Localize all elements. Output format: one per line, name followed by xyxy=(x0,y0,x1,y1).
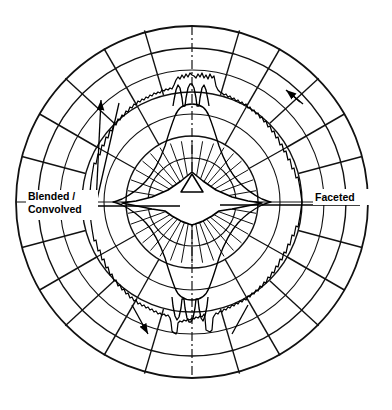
spoke-outer-half xyxy=(22,231,86,248)
leader-bottom-left-arrow xyxy=(132,305,148,334)
spoke-outer xyxy=(247,49,280,106)
spoke-outer xyxy=(40,114,97,147)
spoke-mid xyxy=(225,106,247,145)
spoke-mid xyxy=(97,147,136,169)
spoke-outer-half xyxy=(221,30,240,95)
spoke-mid xyxy=(137,259,159,298)
figure-caption xyxy=(4,398,388,410)
spoke-outer xyxy=(287,114,344,147)
spoke-outer-half xyxy=(22,157,86,174)
spoke-outer-half xyxy=(298,157,362,174)
spoke-mid xyxy=(248,147,287,169)
leader-left-arrow-second xyxy=(96,103,119,204)
spoke-outer xyxy=(287,257,344,290)
spoke-outer xyxy=(40,257,97,290)
label-blended-line1: Blended / xyxy=(28,190,75,202)
spoke-outer xyxy=(247,298,280,355)
spoke-outer-half xyxy=(145,30,164,95)
aircraft-planform-silhouette xyxy=(122,172,262,225)
leader-bottom-right-arrow xyxy=(232,305,248,334)
label-faceted: Faceted xyxy=(315,191,355,203)
spoke-mid xyxy=(137,106,159,145)
spoke-outer-half xyxy=(145,309,164,374)
spoke-mid xyxy=(97,235,136,257)
trace-blended-top-lobes xyxy=(173,84,209,106)
polar-rcs-figure: Blended / Convolved Faceted xyxy=(0,0,392,410)
polar-plot-svg: Blended / Convolved Faceted xyxy=(0,0,392,410)
label-blended-line2: Convolved xyxy=(28,203,82,215)
spoke-outer xyxy=(104,298,137,355)
spoke-mid xyxy=(225,259,247,298)
spoke-outer xyxy=(104,49,137,106)
spoke-outer-half xyxy=(221,309,240,374)
spoke-mid xyxy=(248,235,287,257)
spoke-outer-half xyxy=(298,231,362,248)
trace-blended-bottom-lobes xyxy=(172,297,208,322)
